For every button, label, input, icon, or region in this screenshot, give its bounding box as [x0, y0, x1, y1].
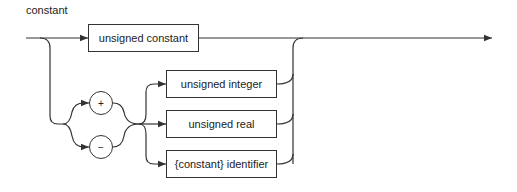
node-unsigned-real: unsigned real — [166, 110, 277, 138]
node-minus-sign: − — [89, 135, 113, 159]
node-unsigned-integer: unsigned integer — [166, 70, 277, 98]
node-constant-identifier: {constant} identifier — [166, 150, 277, 178]
node-plus-sign: + — [89, 91, 113, 115]
node-unsigned-constant: unsigned constant — [88, 24, 199, 52]
